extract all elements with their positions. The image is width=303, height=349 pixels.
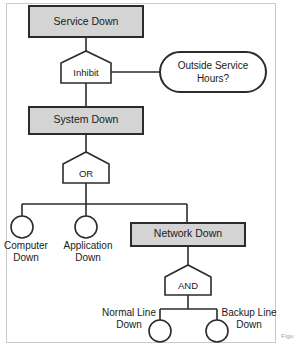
node-system-down[interactable]: System Down bbox=[29, 107, 143, 134]
fault-tree-svg: Service Down Inhibit Outside Service Hou… bbox=[0, 0, 303, 349]
node-or-gate[interactable]: OR bbox=[63, 152, 109, 183]
figure-caption-fragment: Figu bbox=[281, 333, 303, 339]
or-gate-label: OR bbox=[79, 168, 93, 179]
inhibit-gate-label: Inhibit bbox=[73, 67, 99, 78]
application-down-label-line2: Down bbox=[75, 252, 101, 263]
edge-and-to-children-bus bbox=[160, 295, 217, 320]
node-application-down[interactable]: Application Down bbox=[64, 216, 113, 263]
system-down-label: System Down bbox=[54, 113, 119, 125]
normal-line-down-label-line2: Down bbox=[116, 319, 142, 330]
and-gate-label: AND bbox=[178, 280, 198, 291]
network-down-label: Network Down bbox=[154, 227, 222, 239]
computer-down-label-line2: Down bbox=[13, 252, 39, 263]
application-down-label-line1: Application bbox=[64, 240, 113, 251]
service-down-label: Service Down bbox=[54, 15, 119, 27]
node-and-gate[interactable]: AND bbox=[165, 265, 211, 295]
node-network-down[interactable]: Network Down bbox=[131, 223, 245, 246]
outside-service-hours-label-line2: Hours? bbox=[197, 73, 230, 84]
node-service-down[interactable]: Service Down bbox=[29, 6, 143, 37]
node-outside-service-hours[interactable]: Outside Service Hours? bbox=[160, 52, 266, 92]
backup-line-down-label-line2: Down bbox=[236, 319, 262, 330]
normal-line-down-label-line1: Normal Line bbox=[102, 307, 156, 318]
edge-or-to-children-bus bbox=[22, 183, 187, 223]
diagram-page: Service Down Inhibit Outside Service Hou… bbox=[0, 0, 303, 349]
backup-line-down-label-line1: Backup Line bbox=[221, 307, 276, 318]
outside-service-hours-label-line1: Outside Service bbox=[178, 60, 249, 71]
node-computer-down[interactable]: Computer Down bbox=[4, 216, 49, 263]
computer-down-label-line1: Computer bbox=[4, 240, 49, 251]
node-inhibit-gate[interactable]: Inhibit bbox=[61, 51, 111, 83]
